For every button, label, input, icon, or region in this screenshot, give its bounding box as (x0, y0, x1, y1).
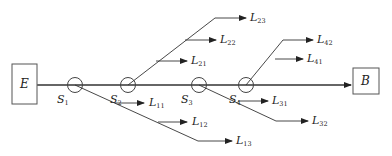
switch-s4-label: S4 (229, 94, 241, 107)
load-l31-sub: 31 (279, 100, 287, 108)
source-label-e: E (20, 78, 29, 90)
load-l13-label: L13 (236, 135, 252, 148)
switch-s2-sub: 2 (118, 99, 122, 107)
sink-label-b: B (361, 75, 370, 87)
switch-s2-letter: S (110, 93, 118, 106)
load-l31-label: L31 (272, 95, 288, 108)
load-l41-label: L41 (307, 53, 323, 66)
load-l12-label: L12 (192, 116, 208, 129)
branch-s2 (128, 18, 246, 85)
switch-s3-label: S3 (181, 94, 193, 107)
branch-s1 (75, 85, 232, 141)
switch-s3-sub: 3 (189, 99, 193, 107)
load-l21-label: L21 (191, 55, 207, 68)
load-l21-sub: 21 (198, 60, 206, 68)
load-l13-sub: 13 (243, 140, 251, 148)
load-l32-sub: 32 (319, 120, 327, 128)
switch-s3-letter: S (181, 93, 189, 106)
switch-s2-label: S2 (110, 94, 122, 107)
load-l41-sub: 41 (314, 58, 322, 66)
load-l11-label: L11 (149, 97, 165, 110)
load-l42-label: L42 (317, 34, 333, 47)
load-l22-label: L22 (220, 34, 236, 47)
load-l11-sub: 11 (156, 102, 164, 110)
load-l22-sub: 22 (227, 39, 235, 47)
switch-s1-sub: 1 (65, 99, 69, 107)
load-l23-sub: 23 (257, 17, 265, 25)
switch-s1-label: S1 (57, 94, 69, 107)
load-l42-sub: 42 (324, 39, 332, 47)
branch-s3 (199, 85, 308, 121)
distribution-network-diagram (0, 0, 392, 156)
switch-s4-sub: 4 (237, 99, 241, 107)
switch-s4-letter: S (229, 93, 237, 106)
load-l32-label: L32 (312, 115, 328, 128)
load-l12-sub: 12 (199, 121, 207, 129)
switch-s1-letter: S (57, 93, 65, 106)
load-l23-label: L23 (250, 12, 266, 25)
branch-s4 (246, 40, 313, 85)
